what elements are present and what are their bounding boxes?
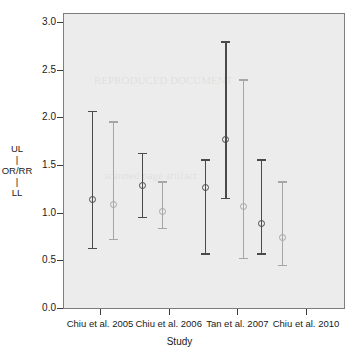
y-tick-label: 0.5 xyxy=(22,255,56,265)
y-tick-label: 2.0 xyxy=(22,112,56,122)
point-estimate-marker[interactable] xyxy=(258,220,265,227)
point-estimate-marker[interactable] xyxy=(159,208,166,215)
error-bar[interactable] xyxy=(256,159,268,254)
error-bar[interactable] xyxy=(238,79,250,259)
y-tick-label: 0.0 xyxy=(22,303,56,313)
error-bar[interactable] xyxy=(199,159,211,254)
error-bar-cap-lower xyxy=(239,258,248,259)
error-bar-cap-upper xyxy=(88,111,97,112)
y-axis-title-line-ul: UL xyxy=(0,143,34,154)
y-axis-title: UL | OR/RR | LL xyxy=(0,143,34,198)
point-estimate-marker[interactable] xyxy=(240,203,247,210)
point-estimate-marker[interactable] xyxy=(139,182,146,189)
x-tick-label: Chiu et al. 2006 xyxy=(135,318,202,329)
error-bar[interactable] xyxy=(220,41,232,199)
error-bar-whisker xyxy=(92,111,93,249)
y-tick-label: 1.0 xyxy=(22,208,56,218)
x-tick-mark xyxy=(100,309,101,315)
error-bar-cap-lower xyxy=(257,253,266,254)
error-bar[interactable] xyxy=(107,121,119,240)
y-tick-label: 2.5 xyxy=(22,65,56,75)
error-bar-whisker xyxy=(225,41,226,199)
error-bar-cap-upper xyxy=(221,41,230,42)
y-tick-label: 3.0 xyxy=(22,17,56,27)
error-bar[interactable] xyxy=(87,111,99,249)
error-bar[interactable] xyxy=(157,181,169,229)
plot-area: REPRODUCED DOCUMENTscanned page artifact xyxy=(64,14,344,308)
x-tick-mark xyxy=(237,309,238,315)
error-bar-cap-upper xyxy=(158,181,167,182)
error-bar-cap-lower xyxy=(109,239,118,240)
error-bar-cap-upper xyxy=(278,181,287,182)
point-estimate-marker[interactable] xyxy=(279,234,286,241)
point-estimate-marker[interactable] xyxy=(89,196,96,203)
error-bar-cap-lower xyxy=(158,228,167,229)
error-bar[interactable] xyxy=(276,181,288,266)
point-estimate-marker[interactable] xyxy=(202,184,209,191)
y-tick-label: 1.5 xyxy=(22,160,56,170)
y-axis-title-line-sep2: | xyxy=(0,176,34,187)
x-tick-label: Tan et al. 2007 xyxy=(206,318,268,329)
error-bar-cap-lower xyxy=(278,265,287,266)
error-bar-cap-upper xyxy=(239,79,248,80)
y-axis-title-line-ll: LL xyxy=(0,187,34,198)
error-bar[interactable] xyxy=(136,153,148,219)
point-estimate-marker[interactable] xyxy=(110,201,117,208)
x-axis-title: Study xyxy=(0,336,359,347)
background-watermark: REPRODUCED DOCUMENT xyxy=(94,74,232,86)
error-bar-whisker xyxy=(243,79,244,259)
plot-panel: REPRODUCED DOCUMENTscanned page artifact xyxy=(63,13,345,309)
x-tick-label: Chiu et al. 2010 xyxy=(273,318,340,329)
error-bar-whisker xyxy=(205,159,206,254)
error-bar-cap-lower xyxy=(88,248,97,249)
error-bar-cap-lower xyxy=(201,253,210,254)
x-tick-mark xyxy=(306,309,307,315)
x-tick-mark xyxy=(169,309,170,315)
error-bar-cap-lower xyxy=(138,217,147,218)
error-bar-whisker xyxy=(113,121,114,240)
error-bar-whisker xyxy=(261,159,262,254)
point-estimate-marker[interactable] xyxy=(222,136,229,143)
error-bar-whisker xyxy=(162,181,163,229)
error-bar-cap-upper xyxy=(138,153,147,154)
x-tick-label: Chiu et al. 2005 xyxy=(67,318,134,329)
chart-figure: UL | OR/RR | LL 0.00.51.01.52.02.53.0 RE… xyxy=(0,0,359,354)
error-bar-cap-lower xyxy=(221,198,230,199)
error-bar-cap-upper xyxy=(201,159,210,160)
error-bar-cap-upper xyxy=(109,121,118,122)
error-bar-cap-upper xyxy=(257,159,266,160)
error-bar-whisker xyxy=(282,181,283,266)
